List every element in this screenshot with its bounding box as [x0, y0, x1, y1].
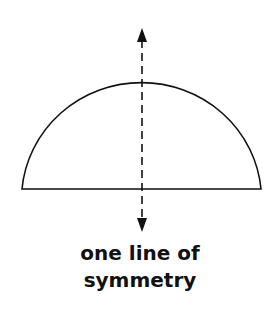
- caption-line-1: one line of: [0, 240, 271, 267]
- caption-line-2: symmetry: [0, 267, 271, 294]
- arrow-up-icon: [137, 28, 147, 42]
- caption: one line of symmetry: [0, 240, 271, 294]
- arrow-down-icon: [137, 218, 147, 232]
